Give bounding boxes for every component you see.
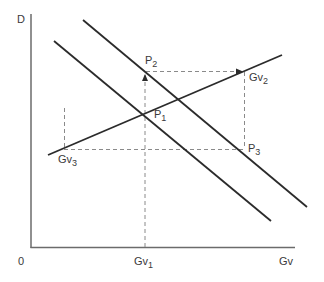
diagram-canvas (0, 0, 324, 282)
point-label-p2: P2 (145, 55, 157, 66)
gv3-label: Gv3 (58, 154, 77, 165)
y-axis-label: D (17, 14, 25, 25)
origin-label: 0 (18, 256, 24, 267)
gv1-label: Gv1 (134, 256, 153, 267)
point-label-p1-sub: 1 (161, 113, 166, 123)
gv1-label-sub: 1 (148, 260, 153, 270)
gv2-label: Gv2 (249, 72, 268, 83)
supply-curve-upward (48, 55, 282, 155)
demand-curve-lower (54, 41, 271, 221)
gv3-label-base: Gv (58, 153, 72, 165)
x-axis-label: Gv (279, 256, 293, 267)
point-label-p3: P3 (248, 143, 260, 154)
point-label-p3-sub: 3 (255, 147, 260, 157)
gv1-label-base: Gv (134, 255, 148, 267)
point-label-p2-sub: 2 (152, 59, 157, 69)
demand-curve-upper (83, 20, 307, 207)
gv3-label-sub: 3 (72, 158, 77, 168)
point-label-p1: P1 (154, 109, 166, 120)
gv2-label-sub: 2 (263, 76, 268, 86)
gv2-label-base: Gv (249, 71, 263, 83)
